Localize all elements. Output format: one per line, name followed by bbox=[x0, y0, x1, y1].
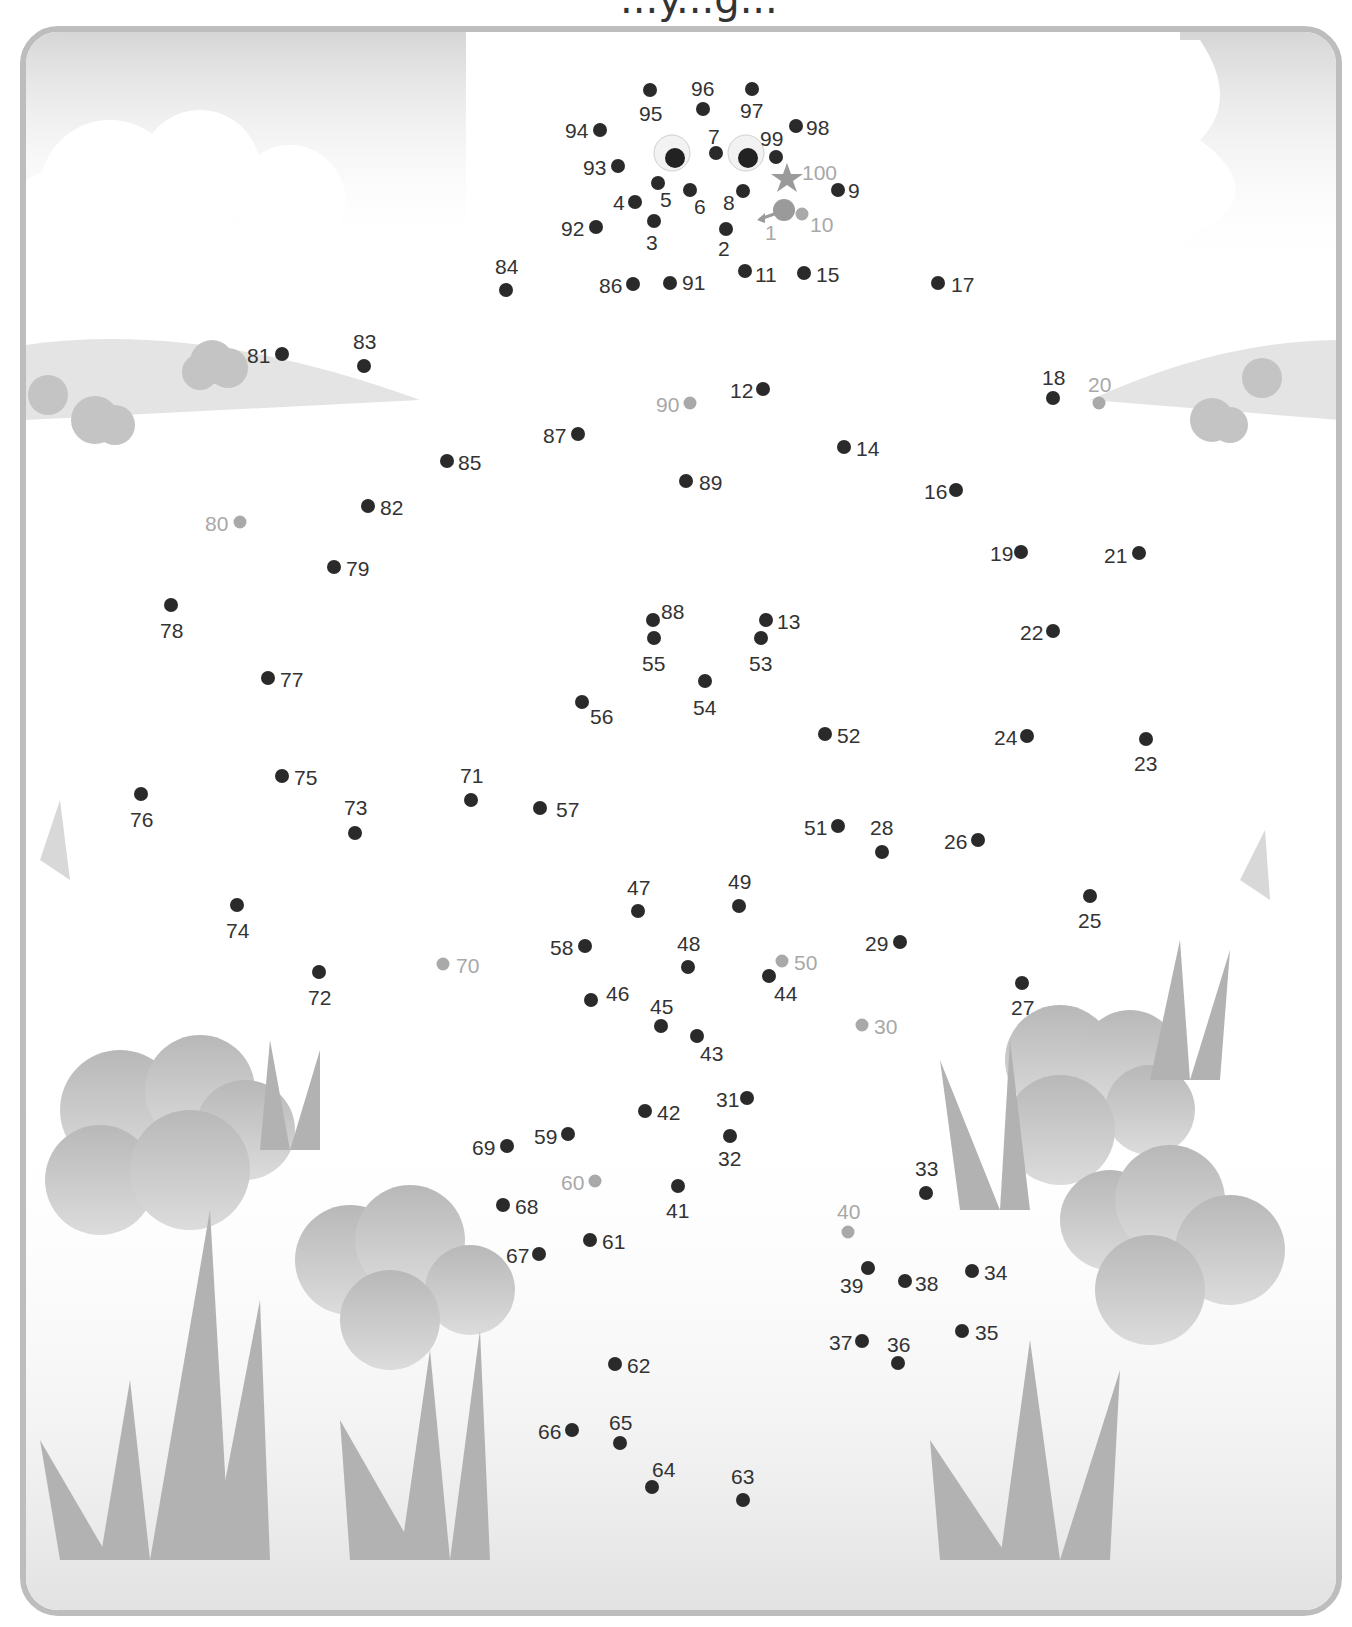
dot-22[interactable] bbox=[1046, 624, 1060, 638]
dot-40[interactable] bbox=[842, 1226, 855, 1239]
dot-76[interactable] bbox=[134, 787, 148, 801]
dot-4[interactable] bbox=[628, 195, 642, 209]
dot-80[interactable] bbox=[234, 516, 247, 529]
dot-91[interactable] bbox=[663, 276, 677, 290]
dot-87[interactable] bbox=[571, 427, 585, 441]
dot-53[interactable] bbox=[754, 631, 768, 645]
dot-94[interactable] bbox=[593, 123, 607, 137]
dot-46[interactable] bbox=[584, 993, 598, 1007]
dot-93[interactable] bbox=[611, 159, 625, 173]
dot-75[interactable] bbox=[275, 769, 289, 783]
dot-34[interactable] bbox=[965, 1264, 979, 1278]
dot-26[interactable] bbox=[971, 833, 985, 847]
dot-65[interactable] bbox=[613, 1436, 627, 1450]
dot-16[interactable] bbox=[949, 483, 963, 497]
dot-39[interactable] bbox=[861, 1261, 875, 1275]
dot-59[interactable] bbox=[561, 1127, 575, 1141]
dot-90[interactable] bbox=[684, 397, 697, 410]
dot-92[interactable] bbox=[589, 220, 603, 234]
dot-98[interactable] bbox=[789, 119, 803, 133]
dot-88[interactable] bbox=[646, 613, 660, 627]
dot-50[interactable] bbox=[776, 955, 789, 968]
dot-label: 33 bbox=[915, 1158, 938, 1179]
dot-57[interactable] bbox=[533, 801, 547, 815]
dot-29[interactable] bbox=[893, 935, 907, 949]
dot-24[interactable] bbox=[1020, 729, 1034, 743]
dot-label: 83 bbox=[353, 331, 376, 352]
dot-38[interactable] bbox=[898, 1274, 912, 1288]
dot-30[interactable] bbox=[856, 1019, 869, 1032]
dot-10[interactable] bbox=[796, 208, 809, 221]
dot-84[interactable] bbox=[499, 283, 513, 297]
dot-61[interactable] bbox=[583, 1233, 597, 1247]
dot-74[interactable] bbox=[230, 898, 244, 912]
dot-96[interactable] bbox=[696, 102, 710, 116]
dot-31[interactable] bbox=[740, 1091, 754, 1105]
dot-23[interactable] bbox=[1139, 732, 1153, 746]
dot-32[interactable] bbox=[723, 1129, 737, 1143]
dot-78[interactable] bbox=[164, 598, 178, 612]
dot-21[interactable] bbox=[1132, 546, 1146, 560]
dot-7[interactable] bbox=[709, 146, 723, 160]
dot-51[interactable] bbox=[831, 819, 845, 833]
dot-11[interactable] bbox=[738, 264, 752, 278]
dot-86[interactable] bbox=[626, 277, 640, 291]
dot-89[interactable] bbox=[679, 474, 693, 488]
dot-37[interactable] bbox=[855, 1334, 869, 1348]
dot-35[interactable] bbox=[955, 1324, 969, 1338]
dot-label: 2 bbox=[718, 238, 730, 259]
dot-17[interactable] bbox=[931, 276, 945, 290]
dot-54[interactable] bbox=[698, 674, 712, 688]
dot-3[interactable] bbox=[647, 214, 661, 228]
dot-2[interactable] bbox=[719, 222, 733, 236]
dot-28[interactable] bbox=[875, 845, 889, 859]
dot-72[interactable] bbox=[312, 965, 326, 979]
dot-44[interactable] bbox=[762, 969, 776, 983]
dot-81[interactable] bbox=[275, 347, 289, 361]
dot-36[interactable] bbox=[891, 1356, 905, 1370]
dot-18[interactable] bbox=[1046, 391, 1060, 405]
dot-99[interactable] bbox=[769, 150, 783, 164]
dot-66[interactable] bbox=[565, 1423, 579, 1437]
dot-15[interactable] bbox=[797, 266, 811, 280]
dot-73[interactable] bbox=[348, 826, 362, 840]
dot-8[interactable] bbox=[736, 184, 750, 198]
dot-52[interactable] bbox=[818, 727, 832, 741]
dot-48[interactable] bbox=[681, 960, 695, 974]
dot-14[interactable] bbox=[837, 440, 851, 454]
dot-69[interactable] bbox=[500, 1139, 514, 1153]
dot-82[interactable] bbox=[361, 499, 375, 513]
dot-70[interactable] bbox=[437, 958, 450, 971]
dot-42[interactable] bbox=[638, 1104, 652, 1118]
dot-58[interactable] bbox=[578, 939, 592, 953]
dot-label: 35 bbox=[975, 1322, 998, 1343]
dot-77[interactable] bbox=[261, 671, 275, 685]
dot-12[interactable] bbox=[756, 382, 770, 396]
dot-33[interactable] bbox=[919, 1186, 933, 1200]
dot-9[interactable] bbox=[831, 183, 845, 197]
dot-83[interactable] bbox=[357, 359, 371, 373]
dot-27[interactable] bbox=[1015, 976, 1029, 990]
dot-56[interactable] bbox=[575, 695, 589, 709]
dot-19[interactable] bbox=[1014, 545, 1028, 559]
dot-25[interactable] bbox=[1083, 889, 1097, 903]
dot-64[interactable] bbox=[645, 1480, 659, 1494]
dot-47[interactable] bbox=[631, 904, 645, 918]
dot-79[interactable] bbox=[327, 560, 341, 574]
dot-67[interactable] bbox=[532, 1247, 546, 1261]
dot-49[interactable] bbox=[732, 899, 746, 913]
dot-71[interactable] bbox=[464, 793, 478, 807]
dot-62[interactable] bbox=[608, 1357, 622, 1371]
dot-13[interactable] bbox=[759, 613, 773, 627]
dot-43[interactable] bbox=[690, 1029, 704, 1043]
dot-41[interactable] bbox=[671, 1179, 685, 1193]
dot-95[interactable] bbox=[643, 83, 657, 97]
dot-60[interactable] bbox=[589, 1175, 602, 1188]
dot-45[interactable] bbox=[654, 1019, 668, 1033]
dot-20[interactable] bbox=[1093, 397, 1106, 410]
dot-97[interactable] bbox=[745, 82, 759, 96]
dot-63[interactable] bbox=[736, 1493, 750, 1507]
dot-68[interactable] bbox=[496, 1198, 510, 1212]
dot-85[interactable] bbox=[440, 454, 454, 468]
dot-55[interactable] bbox=[647, 631, 661, 645]
